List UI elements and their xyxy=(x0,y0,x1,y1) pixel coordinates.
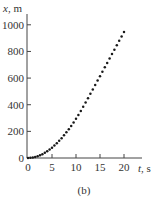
y-tick-label: 1000 xyxy=(2,19,25,31)
data-point xyxy=(101,70,104,73)
data-point xyxy=(65,131,68,134)
data-point xyxy=(120,35,123,38)
data-point xyxy=(96,79,99,82)
data-point xyxy=(36,155,39,158)
figure-label: (b) xyxy=(78,184,91,197)
data-point xyxy=(75,118,78,121)
data-point xyxy=(68,128,71,131)
data-point xyxy=(84,101,87,104)
position-time-chart: 02004006008001000 05101520 x, m t, s (b) xyxy=(0,0,164,208)
data-point xyxy=(92,88,95,91)
data-point xyxy=(106,62,109,65)
y-tick-label: 800 xyxy=(8,45,25,57)
data-point xyxy=(51,146,54,149)
x-tick-label: 0 xyxy=(25,161,31,173)
data-point xyxy=(44,152,47,155)
data-point xyxy=(32,156,35,159)
y-tick-label: 200 xyxy=(8,125,25,137)
data-point xyxy=(53,144,56,147)
data-point xyxy=(111,53,114,56)
data-point xyxy=(70,125,73,128)
x-tick-label: 20 xyxy=(119,161,131,173)
data-point xyxy=(41,153,44,156)
data-point xyxy=(58,140,61,143)
y-tick-label: 600 xyxy=(8,72,25,84)
data-point xyxy=(123,31,126,33)
data-point xyxy=(116,44,119,47)
x-axis-label: t, s xyxy=(138,162,151,174)
data-point xyxy=(34,156,37,159)
data-point xyxy=(118,40,121,43)
data-point xyxy=(94,84,97,87)
data-point xyxy=(108,57,111,60)
x-tick-label: 15 xyxy=(95,161,107,173)
data-point xyxy=(80,110,83,113)
data-point xyxy=(82,106,85,109)
x-tick-label: 10 xyxy=(71,161,83,173)
data-point xyxy=(113,48,116,51)
data-point xyxy=(46,150,49,153)
data-point xyxy=(77,114,80,117)
x-tick-group: 05101520 xyxy=(25,154,130,173)
y-tick-label: 400 xyxy=(8,99,25,111)
data-point xyxy=(56,142,59,145)
data-point xyxy=(99,75,102,78)
data-point xyxy=(104,66,107,69)
data-point xyxy=(87,97,90,100)
data-point xyxy=(72,121,75,124)
data-point xyxy=(29,157,32,160)
y-axis-label: x, m xyxy=(2,2,22,14)
data-point xyxy=(60,137,63,140)
x-tick-label: 5 xyxy=(49,161,55,173)
data-point xyxy=(63,134,66,137)
data-point xyxy=(27,157,30,160)
data-point xyxy=(89,93,92,96)
data-point xyxy=(39,154,42,157)
data-point xyxy=(48,148,51,151)
y-tick-label: 0 xyxy=(19,152,25,164)
data-points xyxy=(27,31,126,160)
